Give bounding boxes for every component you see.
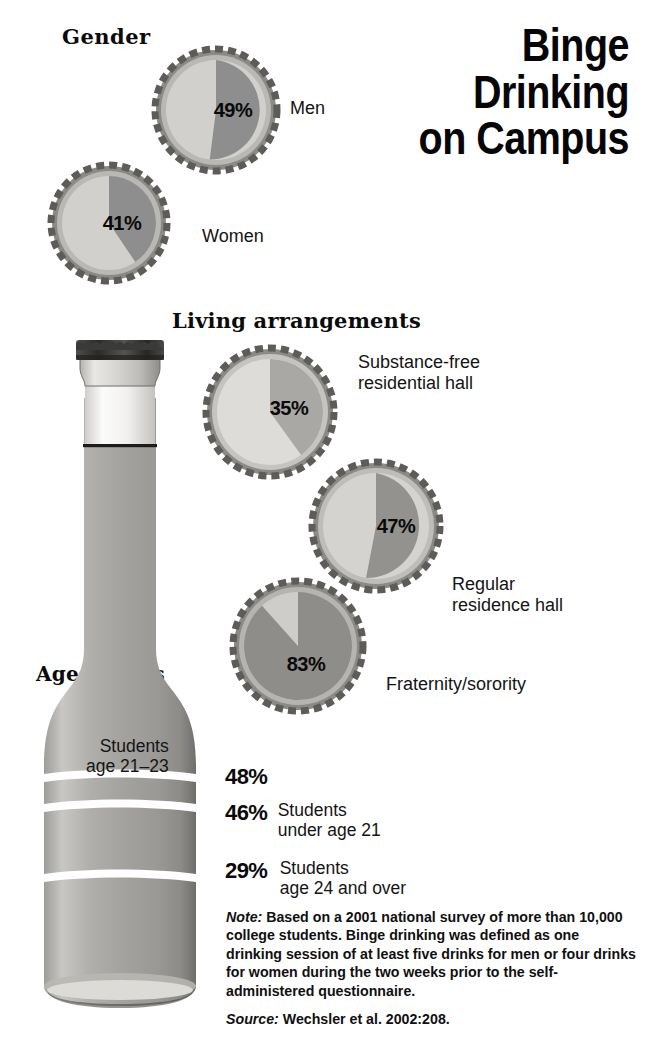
pie-label-substance-free: Substance-free residential hall	[358, 352, 480, 394]
footnote-source: Source: Wechsler et al. 2002:208.	[226, 1010, 638, 1028]
age-label-under-21: Students under age 21	[278, 800, 381, 841]
age-row-under-21: 46% Students under age 21	[225, 800, 381, 841]
footnote: Note: Based on a 2001 national survey of…	[226, 908, 638, 1039]
pie-label-fraternity-sorority: Fraternity/sorority	[386, 674, 526, 695]
age-label-21-23: Students age 21–23	[86, 736, 169, 777]
title-line-2: Drinking	[377, 69, 629, 116]
section-heading-gender: Gender	[62, 24, 151, 49]
pie-chart-women: 41%	[48, 162, 170, 284]
pie-value-substance-free: 35%	[270, 397, 309, 419]
footnote-note: Note: Based on a 2001 national survey of…	[226, 908, 638, 1000]
footnote-note-text: Based on a 2001 national survey of more …	[226, 909, 636, 999]
pie-value-fraternity-sorority: 83%	[287, 653, 326, 675]
pie-label-women: Women	[202, 226, 264, 247]
age-row-21-23: 48%	[225, 764, 267, 790]
age-label-24-and-over: Students age 24 and over	[280, 858, 407, 899]
title-line-3: on Campus	[377, 115, 629, 162]
footnote-note-label: Note:	[226, 909, 262, 925]
title-line-1: Binge	[377, 22, 629, 69]
pie-value-men: 49%	[214, 99, 253, 121]
age-row-24-and-over: 29% Students age 24 and over	[225, 858, 406, 899]
footnote-source-text: Wechsler et al. 2002:208.	[279, 1011, 450, 1027]
pie-chart-regular-residence: 47%	[308, 458, 444, 594]
section-heading-living: Living arrangements	[172, 308, 421, 333]
age-value-under-21: 46%	[225, 800, 267, 825]
infographic-root: Binge Drinking on Campus Gender Living a…	[0, 0, 645, 1048]
page-title: Binge Drinking on Campus	[377, 22, 629, 162]
age-value-24-and-over: 29%	[225, 858, 267, 883]
pie-value-regular-residence: 47%	[377, 515, 416, 537]
pie-chart-fraternity-sorority: 83%	[228, 576, 368, 716]
pie-label-men: Men	[290, 98, 325, 119]
beer-bottle-illustration	[24, 338, 214, 1038]
footnote-source-label: Source:	[226, 1011, 279, 1027]
pie-label-regular-residence: Regular residence hall	[452, 574, 563, 616]
pie-chart-men: 49%	[152, 46, 280, 174]
pie-value-women: 41%	[103, 212, 142, 234]
age-value-21-23: 48%	[225, 764, 267, 789]
